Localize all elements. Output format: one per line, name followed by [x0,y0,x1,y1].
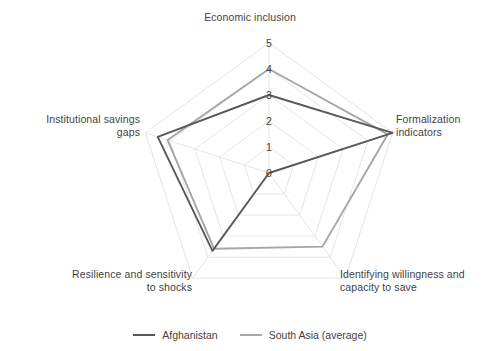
tick-label-5: 5 [258,37,280,49]
grid-spoke-4 [145,133,269,173]
axis-label-identifying-willingness: Identifying willingness and capacity to … [340,268,500,293]
radar-chart: Economic inclusion Formalization indicat… [0,0,500,351]
axis-label-resilience-shocks: Resilience and sensitivity to shocks [40,268,192,293]
legend-swatch-icon [133,334,155,336]
legend-label: South Asia (average) [269,329,367,341]
axis-label-institutional-savings-gaps: Institutional savings gaps [8,113,140,138]
tick-label-4: 4 [258,63,280,75]
grid-spokes [145,43,392,278]
chart-legend: AfghanistanSouth Asia (average) [0,329,500,341]
legend-item-south-asia-average[interactable]: South Asia (average) [240,329,367,341]
legend-swatch-icon [240,334,262,336]
legend-label: Afghanistan [162,329,217,341]
tick-label-3: 3 [258,89,280,101]
axis-label-formalization-indicators: Formalization indicators [396,113,500,138]
tick-label-2: 2 [258,115,280,127]
axis-label-economic-inclusion: Economic inclusion [0,11,500,24]
legend-item-afghanistan[interactable]: Afghanistan [133,329,217,341]
tick-label-0: 0 [258,167,280,179]
tick-label-1: 1 [258,141,280,153]
radar-plot-area [0,0,500,351]
